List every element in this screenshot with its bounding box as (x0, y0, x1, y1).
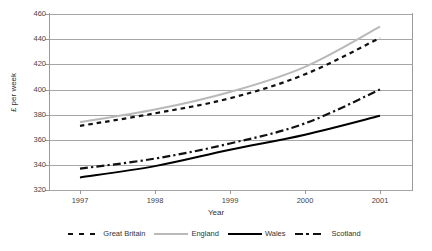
y-tick-label-380: 380 (20, 111, 46, 119)
y-tick-label-420: 420 (20, 60, 46, 68)
legend-swatch-solid-gray-icon (154, 231, 188, 237)
legend-swatch-solid-black-icon (228, 231, 262, 237)
legend-label-england: England (191, 229, 224, 238)
gridline-380 (49, 115, 413, 116)
y-axis-title: £ per week (9, 58, 18, 128)
x-tickmark (380, 190, 381, 194)
y-tick-label-400: 400 (20, 86, 46, 94)
y-tick-label-320: 320 (20, 186, 46, 194)
x-tick-label-2000: 2000 (285, 196, 325, 205)
x-axis-title: Year (0, 208, 432, 217)
x-tickmark (305, 190, 306, 194)
legend-label-great-britain: Great Britain (103, 229, 150, 238)
x-tick-label-1997: 1997 (60, 196, 100, 205)
x-tick-label-1999: 1999 (210, 196, 250, 205)
gridline-340 (49, 165, 413, 166)
y-axis-right-line (412, 13, 413, 191)
series-line-england (80, 27, 380, 123)
gridline-420 (49, 64, 413, 65)
legend-swatch-dash-dot-icon (295, 231, 329, 237)
legend-item-england[interactable]: England (154, 229, 224, 238)
x-tick-label-2001: 2001 (360, 196, 400, 205)
gridline-440 (49, 39, 413, 40)
plot-area: 460 440 420 400 380 360 340 320 1997 1 (0, 0, 432, 251)
y-axis-line (49, 13, 50, 191)
series-line-wales (80, 116, 380, 178)
legend-item-wales[interactable]: Wales (228, 229, 291, 238)
y-tick-label-360: 360 (20, 136, 46, 144)
x-tick-label-1998: 1998 (135, 196, 175, 205)
gridline-460 (49, 14, 413, 15)
x-tickmark (80, 190, 81, 194)
gridline-320 (49, 190, 413, 191)
legend-item-scotland[interactable]: Scotland (295, 229, 366, 238)
legend-label-scotland: Scotland (332, 229, 366, 238)
gridline-360 (49, 140, 413, 141)
y-tick-label-340: 340 (20, 161, 46, 169)
x-tickmark (230, 190, 231, 194)
y-tick-label-460: 460 (20, 10, 46, 18)
series-line-scotland (80, 89, 380, 168)
line-chart: 460 440 420 400 380 360 340 320 1997 1 (0, 0, 432, 251)
gridline-400 (49, 90, 413, 91)
legend-swatch-dotted-icon (66, 231, 100, 237)
chart-legend: Great Britain England Wales Scotland (0, 229, 432, 238)
y-tick-label-440: 440 (20, 35, 46, 43)
x-tickmark (155, 190, 156, 194)
legend-label-wales: Wales (265, 229, 291, 238)
legend-item-great-britain[interactable]: Great Britain (66, 229, 150, 238)
series-line-great-britain (80, 38, 380, 126)
